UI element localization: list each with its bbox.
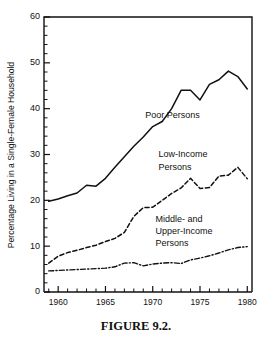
series-label: Poor Persons <box>145 110 200 120</box>
x-tick-label: 1965 <box>96 297 115 307</box>
y-axis-title: Percentage Living in a Single-Female Hou… <box>6 62 16 249</box>
series-line-dashed <box>49 167 248 263</box>
x-axis-tick-labels: 19601965197019751980 <box>49 297 257 307</box>
y-tick-label: 10 <box>30 241 40 251</box>
y-tick-label: 50 <box>30 57 40 67</box>
x-tick-label: 1975 <box>191 297 210 307</box>
x-tick-label: 1980 <box>238 297 257 307</box>
series-label: Persons <box>156 238 190 248</box>
y-tick-label: 60 <box>30 11 40 21</box>
series-label: Persons <box>158 162 192 172</box>
figure-caption: FIGURE 9.2. <box>101 319 172 333</box>
y-tick-label: 40 <box>30 103 40 113</box>
x-tick-label: 1970 <box>143 297 162 307</box>
y-axis-tick-labels: 0102030405060 <box>30 11 40 296</box>
series-annotations: Poor PersonsLow-IncomePersonsMiddle- and… <box>145 110 212 248</box>
y-tick-label: 30 <box>30 149 40 159</box>
line-chart: 0102030405060 19601965197019751980 Poor … <box>0 0 273 338</box>
x-tick-label: 1960 <box>49 297 68 307</box>
series-line-dashdot <box>49 247 248 271</box>
series-label: Upper-Income <box>156 226 213 236</box>
y-axis-ticks <box>44 17 50 292</box>
series-line-solid <box>49 71 248 201</box>
y-tick-label: 20 <box>30 195 40 205</box>
series-label: Middle- and <box>156 214 203 224</box>
x-axis-ticks <box>49 286 248 292</box>
data-series-group <box>49 71 248 271</box>
figure-container: 0102030405060 19601965197019751980 Poor … <box>0 0 273 338</box>
series-label: Low-Income <box>158 149 207 159</box>
y-tick-label: 0 <box>35 286 40 296</box>
